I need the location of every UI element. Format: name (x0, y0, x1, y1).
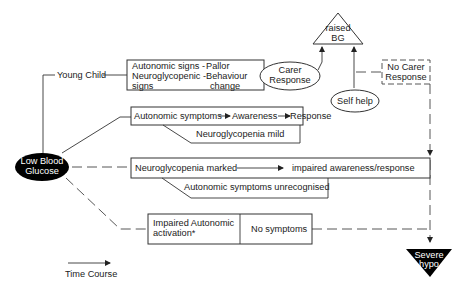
neuroglycopenic-label: Neuroglycopenic - (132, 71, 206, 81)
response-label: Response (290, 111, 331, 121)
no-carer-line2: Response (385, 72, 426, 82)
raised-bg-line1: raised (325, 23, 350, 33)
marked-path-box: Neuroglycopenia marked impaired awarenes… (131, 158, 430, 198)
change-label: change (210, 81, 240, 91)
severe-hypo-line2: hypo (419, 259, 439, 269)
young-child-label: Young Child (57, 70, 106, 80)
awareness-label: Awareness (232, 111, 278, 121)
hypoglycemia-flow-diagram: Autonomic signs - Pallor Neuroglycopenic… (0, 0, 462, 294)
mild-path-box: Autonomic symptoms Awareness Response Ne… (131, 107, 331, 143)
legend: Time Course (65, 263, 117, 279)
carer-response-node: Carer Response (260, 62, 320, 90)
severe-hypo-node: Severe hypo (406, 249, 452, 277)
pallor-label: Pallor (206, 61, 230, 71)
no-symptoms-label: No symptoms (251, 224, 308, 234)
no-carer-line1: No Carer (387, 62, 424, 72)
neuroglycopenia-marked-label: Neuroglycopenia marked (135, 163, 237, 173)
low-blood-line2: Glucose (25, 166, 59, 176)
time-course-label: Time Course (65, 269, 117, 279)
low-blood-line1: Low Blood (21, 156, 64, 166)
young-child-box: Autonomic signs - Pallor Neuroglycopenic… (127, 60, 264, 91)
autonomic-symptoms-label: Autonomic symptoms (134, 111, 222, 121)
low-blood-glucose-node: Low Blood Glucose (15, 153, 69, 181)
carer-response-line2: Response (269, 75, 310, 85)
self-help-node: Self help (331, 90, 379, 112)
impaired-autonomic-line1: Impaired Autonomic (153, 218, 235, 228)
signs-label: signs (132, 81, 154, 91)
behaviour-label: Behaviour (206, 71, 247, 81)
raised-bg-node: raised BG (313, 13, 363, 44)
impaired-path-box: Impaired Autonomic activation* No sympto… (148, 214, 312, 244)
neuroglycopenia-mild-label: Neuroglycopenia mild (196, 129, 284, 139)
impaired-awareness-label: impaired awareness/response (292, 163, 415, 173)
no-carer-response-node: No Carer Response (382, 60, 430, 84)
raised-bg-line2: BG (331, 33, 344, 43)
autonomic-unrecognised-label: Autonomic symptoms unrecognised (184, 182, 330, 192)
carer-response-line1: Carer (279, 65, 302, 75)
impaired-autonomic-line2: activation* (153, 228, 196, 238)
self-help-label: Self help (337, 96, 373, 106)
autonomic-signs-label: Autonomic signs - (132, 61, 205, 71)
